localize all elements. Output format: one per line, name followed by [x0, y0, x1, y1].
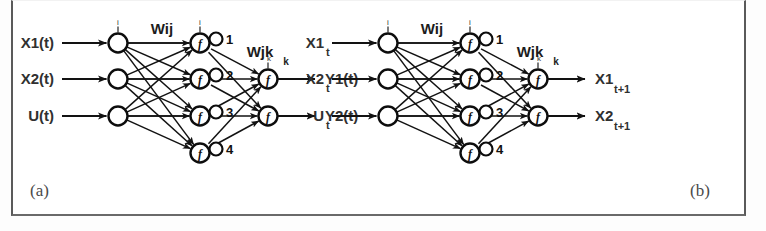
input-node-3[interactable]	[379, 107, 398, 126]
input-node-3[interactable]	[109, 107, 128, 126]
hidden-node-badge-4	[210, 143, 223, 156]
input-subscript-2: t	[326, 82, 330, 94]
input-label-2: X2	[306, 70, 324, 87]
weight-label-wij: Wij	[421, 20, 443, 37]
input-subscript-1: t	[326, 46, 330, 58]
figure-root: X1(t)X2(t)U(t)if1f2f3f4iffkY1(t)Y2(t)Wij…	[0, 0, 766, 231]
hidden-node-badge-2	[480, 69, 493, 82]
network-diagram-canvas: X1(t)X2(t)U(t)if1f2f3f4iffkY1(t)Y2(t)Wij…	[0, 0, 766, 231]
panel-b: X1tX2tUtif1f2f3f4iffkX1t+1X2t+1WijWjkk	[306, 18, 631, 163]
input-node-1[interactable]	[109, 34, 128, 53]
hidden-node-badge-2	[210, 69, 223, 82]
hidden-node-badge-4	[480, 143, 493, 156]
input-tick-label: i	[387, 18, 389, 27]
edges-input-hidden	[124, 43, 194, 149]
weight-subscript-wjk: k	[283, 56, 289, 67]
hidden-node-index-4: 4	[496, 142, 504, 157]
edges-input-hidden	[394, 43, 464, 149]
output-label-1: X1	[595, 70, 613, 87]
input-label-3: U	[313, 107, 324, 124]
hidden-tick-label: i	[199, 18, 201, 27]
input-subscript-3: t	[326, 119, 330, 131]
output-label-2: X2	[595, 107, 613, 124]
hidden-node-index-1: 1	[226, 32, 233, 47]
edge-in3-h4	[127, 120, 191, 149]
input-label-1: X1	[306, 34, 324, 51]
hidden-node-index-4: 4	[226, 142, 234, 157]
input-node-1[interactable]	[379, 34, 398, 53]
input-label-3: U(t)	[28, 107, 54, 124]
input-node-2[interactable]	[109, 70, 128, 89]
weight-label-wij: Wij	[151, 20, 173, 37]
hidden-node-badge-1	[210, 33, 223, 46]
edges-hidden-output	[478, 49, 530, 147]
weight-label-wjk: Wjk	[517, 43, 544, 60]
panels-layer: X1(t)X2(t)U(t)if1f2f3f4iffkY1(t)Y2(t)Wij…	[21, 18, 631, 163]
hidden-node-index-3: 3	[496, 105, 503, 120]
hidden-node-badge-1	[480, 33, 493, 46]
hidden-node-index-1: 1	[496, 32, 503, 47]
edge-in3-h4	[397, 120, 461, 149]
hidden-tick-label: i	[469, 18, 471, 27]
weight-label-wjk: Wjk	[247, 43, 274, 60]
hidden-node-index-2: 2	[226, 68, 233, 83]
input-tick-label: i	[117, 18, 119, 27]
hidden-node-badge-3	[210, 106, 223, 119]
output-subscript-2: t+1	[614, 120, 630, 132]
edges-hidden-output	[208, 49, 260, 147]
panel-caption-a: (a)	[30, 181, 49, 200]
input-node-2[interactable]	[379, 70, 398, 89]
hidden-node-index-3: 3	[226, 105, 233, 120]
panel-caption-b: (b)	[690, 181, 710, 200]
output-subscript-1: t+1	[614, 83, 630, 95]
input-label-2: X2(t)	[21, 70, 54, 87]
weight-subscript-wjk: k	[553, 56, 559, 67]
hidden-node-badge-3	[480, 106, 493, 119]
hidden-node-index-2: 2	[496, 68, 503, 83]
input-label-1: X1(t)	[21, 34, 54, 51]
